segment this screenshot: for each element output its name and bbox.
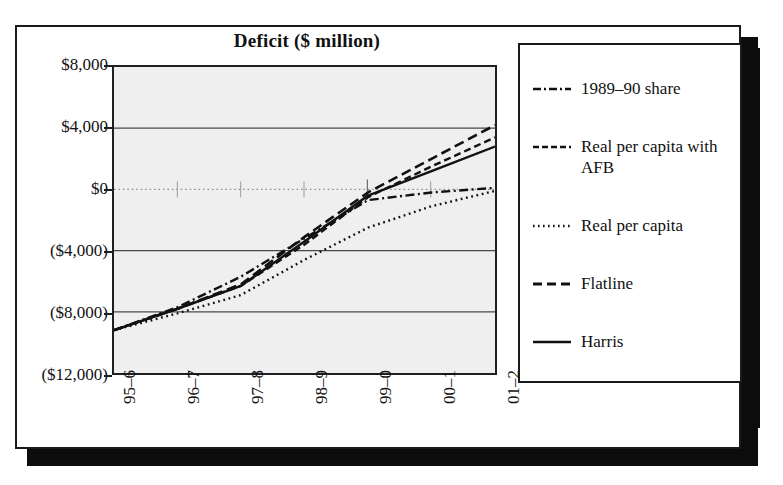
y-tick-mark (104, 375, 112, 377)
series-line (114, 188, 495, 330)
plot-canvas (114, 67, 495, 373)
legend-item[interactable]: Harris (532, 331, 730, 352)
x-tick-label: 01–2 (504, 384, 524, 404)
y-tick-label: ($8,000) (4, 303, 108, 323)
line-style-swatch-dashed-long (532, 275, 572, 293)
x-tick-label: 99–0 (376, 384, 396, 404)
y-tick-mark (104, 251, 112, 253)
x-tick-label: 96–7 (184, 384, 204, 404)
legend-item[interactable]: 1989–90 share (532, 78, 730, 99)
y-tick-label: $0 (4, 179, 108, 199)
x-tick-label: 00–1 (440, 384, 460, 404)
y-tick-mark (104, 313, 112, 315)
chart-legend: 1989–90 share Real per capita with AFB R… (518, 43, 742, 383)
y-tick-mark (104, 65, 112, 67)
y-tick-mark (104, 127, 112, 129)
y-axis: $8,000 $4,000 $0 ($4,000) ($8,000) ($12,… (0, 0, 108, 485)
series-line (114, 137, 495, 330)
legend-item[interactable]: Real per capita with AFB (532, 136, 730, 178)
y-tick-label: ($12,000) (4, 365, 108, 385)
x-tick-label: 95–6 (120, 384, 140, 404)
line-style-swatch-dash-dot (532, 80, 572, 98)
plot-area (112, 65, 497, 375)
line-style-swatch-dotted (532, 217, 572, 235)
line-style-swatch-dashed-medium (532, 138, 572, 156)
x-tick-label: 97–8 (248, 384, 268, 404)
chart-title: Deficit ($ million) (112, 30, 502, 52)
legend-item-label: Harris (581, 331, 623, 352)
legend-drop-shadow (740, 48, 760, 428)
x-tick-label: 98–9 (312, 384, 332, 404)
legend-item-label: Flatline (581, 273, 633, 294)
legend-item[interactable]: Real per capita (532, 215, 730, 236)
y-tick-mark (104, 189, 112, 191)
legend-item[interactable]: Flatline (532, 273, 730, 294)
cropped-top-caption (0, 0, 783, 12)
legend-item-label: Real per capita with AFB (581, 136, 730, 178)
y-tick-label: ($4,000) (4, 241, 108, 261)
gridlines (114, 128, 495, 312)
line-style-swatch-solid (532, 333, 572, 351)
series-layer (114, 125, 495, 330)
legend-item-label: Real per capita (581, 215, 683, 236)
legend-item-label: 1989–90 share (581, 78, 681, 99)
series-line (114, 125, 495, 330)
chart-figure: Deficit ($ million) $8,000 $4,000 $0 ($4… (0, 0, 783, 485)
y-tick-label: $4,000 (4, 117, 108, 137)
y-tick-label: $8,000 (4, 55, 108, 75)
